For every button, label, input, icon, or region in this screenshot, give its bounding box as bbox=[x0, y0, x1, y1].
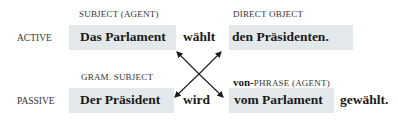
caption-gram-subject: GRAM. SUBJECT bbox=[81, 72, 153, 82]
caption-von-bold: von- bbox=[233, 76, 254, 88]
row-label-passive: PASSIVE bbox=[17, 96, 55, 106]
caption-phrase-agent: PHRASE (AGENT) bbox=[254, 78, 330, 88]
passive-auxiliary: wird bbox=[183, 92, 210, 108]
passive-participle: gewählt. bbox=[340, 92, 388, 108]
passive-agent: vom Parlament bbox=[234, 92, 323, 108]
passive-subject: Der Präsident bbox=[80, 92, 160, 108]
